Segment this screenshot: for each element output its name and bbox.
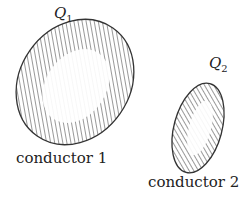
charge-label-q2: Q2: [209, 54, 228, 74]
charge-symbol: Q: [54, 4, 66, 22]
conductor-1-shape: [0, 0, 158, 168]
caption-conductor-2: conductor 2: [148, 173, 239, 191]
charge-label-q1: Q1: [54, 4, 73, 24]
charge-subscript: 1: [66, 13, 72, 24]
charge-subscript: 2: [221, 63, 227, 74]
charge-symbol: Q: [209, 54, 221, 72]
conductors-diagram: [0, 0, 240, 197]
conductor-2-shape: [163, 77, 233, 178]
caption-conductor-1: conductor 1: [16, 149, 107, 167]
